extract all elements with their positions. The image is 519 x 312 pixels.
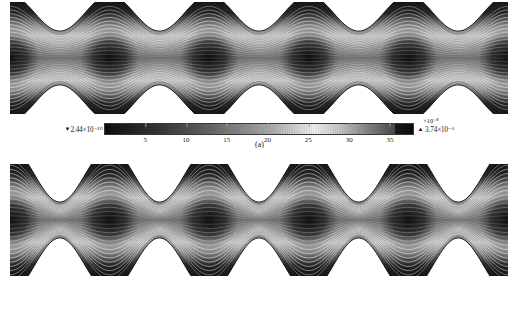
figure-root: ▼2.44×10⁻¹⁰ 5101520253035 ×10⁻⁸ ▲ 3.74×1… bbox=[0, 0, 519, 312]
colorbar-max-value-a: 3.74×10⁻⁶ bbox=[425, 126, 454, 134]
colorbar-a: 5101520253035 ×10⁻⁸ bbox=[104, 123, 414, 135]
colorbar-min-label-a: ▼2.44×10⁻¹⁰ bbox=[65, 125, 103, 134]
contour-field-b bbox=[10, 164, 508, 276]
contour-field-a bbox=[10, 2, 508, 114]
colorbar-max-label-a: ▲ 3.74×10⁻⁶ bbox=[417, 125, 454, 134]
colorbar-row-a: ▼2.44×10⁻¹⁰ 5101520253035 ×10⁻⁸ ▲ 3.74×1… bbox=[0, 118, 519, 140]
colorbar-exponent-a: ×10⁻⁸ bbox=[423, 117, 438, 125]
max-triangle-icon-a: ▲ bbox=[417, 126, 423, 132]
colorbar-gradient-a bbox=[104, 123, 414, 135]
panel-b: ▼2.16×10⁻⁸ 34567891011 ×10⁻⁷ ▲ 1.13×10⁻⁴… bbox=[0, 156, 519, 312]
panel-a: ▼2.44×10⁻¹⁰ 5101520253035 ×10⁻⁸ ▲ 3.74×1… bbox=[0, 0, 519, 156]
panel-label-a: (a) bbox=[0, 140, 519, 149]
colorbar-min-value-a: 2.44×10⁻¹⁰ bbox=[70, 126, 102, 134]
